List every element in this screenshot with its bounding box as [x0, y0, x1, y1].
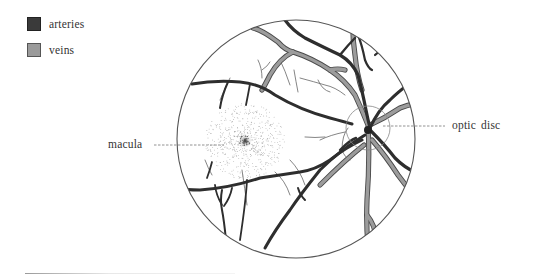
macula-label: macula — [108, 138, 142, 150]
fovea-center — [238, 134, 252, 148]
footer-divider — [25, 273, 235, 274]
retina-diagram — [0, 0, 534, 275]
optic-disc-label: optic disc — [452, 119, 500, 131]
optic-disc-center — [364, 126, 372, 134]
